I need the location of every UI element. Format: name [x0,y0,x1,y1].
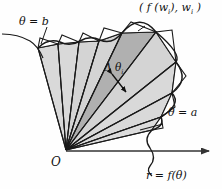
theta-b-leader [2,34,43,58]
label-sample-point: ( f (wi), wi ) [139,2,201,16]
delta-theta-sub: i [121,68,123,76]
label-theta-a: θ = a [168,107,197,118]
point-text-mid: ), w [170,1,191,14]
delta-theta-text: Δ θ [104,61,121,73]
label-theta-b: θ = b [19,16,49,27]
point-text-open: ( f (w [139,1,168,14]
figure-canvas [0,0,222,189]
label-origin: O [51,156,61,168]
label-curve-equation: r = f(θ) [146,170,187,181]
label-delta-theta: Δ θi [104,62,123,76]
point-text-close: ) [193,1,201,14]
polar-area-figure: θ = b θ = a r = f(θ) O ( f (wi), wi ) Δ … [0,0,222,189]
